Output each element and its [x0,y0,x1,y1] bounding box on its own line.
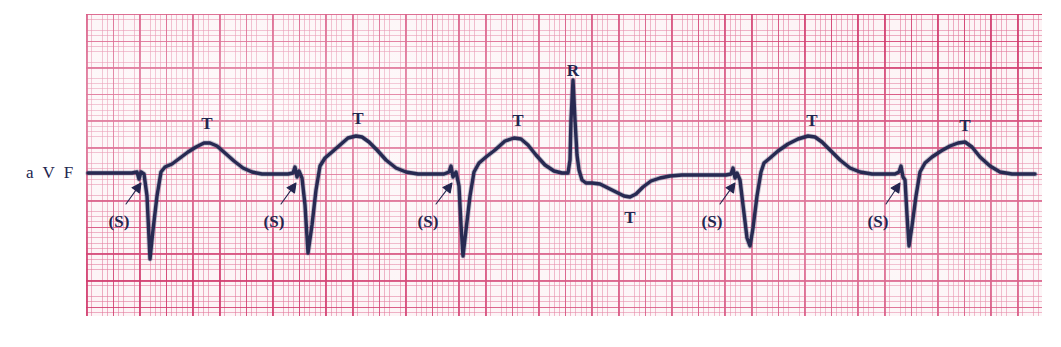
annotation-label-r-1: R [567,62,579,79]
annotation-label-t-2: T [352,110,363,127]
arrow-head-s-2 [287,183,296,193]
annotation-label-t-5: T [806,112,817,129]
arrow-shaft-s-3 [436,190,447,204]
ecg-strip-page: a V F (S)T(S)T(S)TRT(S)T(S)T [0,0,1061,347]
arrow-shaft-s-2 [281,190,291,204]
arrow-shaft-s-1 [126,190,136,204]
annotation-label-s-1: (S) [109,213,130,230]
annotation-label-s-2: (S) [264,213,285,230]
annotation-label-s-3: (S) [418,213,439,230]
annotation-arrows [0,0,1061,347]
annotation-label-t-4: T [624,209,635,226]
arrow-head-s-1 [132,183,141,193]
annotation-label-t-6: T [959,117,970,134]
arrow-shaft-s-4 [720,190,730,204]
arrow-head-s-5 [891,183,900,193]
annotation-label-t-1: T [201,115,212,132]
arrow-head-s-3 [443,183,452,193]
annotation-label-t-3: T [512,112,523,129]
annotation-label-s-5: (S) [868,213,889,230]
arrow-head-s-4 [726,183,735,193]
arrow-shaft-s-5 [886,190,895,204]
annotation-label-s-4: (S) [702,213,723,230]
